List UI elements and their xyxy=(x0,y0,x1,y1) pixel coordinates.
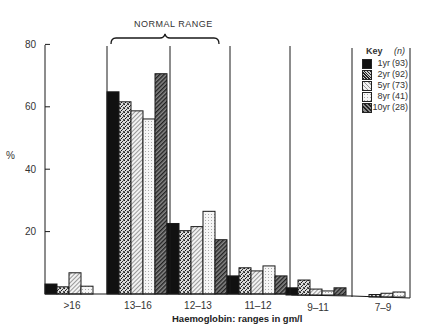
legend-title: Key xyxy=(366,46,383,56)
bar-5yr xyxy=(69,273,81,294)
legend-item-8yr: 8yr(41) xyxy=(360,91,412,102)
bar-group xyxy=(286,280,346,295)
bar-2yr xyxy=(179,231,191,294)
legend-swatch-icon xyxy=(362,81,372,91)
bar-8yr xyxy=(203,211,215,294)
bar-1yr xyxy=(227,276,239,294)
legend-label: 1yr xyxy=(377,58,390,68)
x-tick-12-13: 12–13 xyxy=(173,300,223,311)
y-tick-60: 60 xyxy=(12,101,36,112)
bar-2yr xyxy=(57,287,69,294)
bar-8yr xyxy=(81,286,93,294)
legend-n: (73) xyxy=(392,80,408,90)
bar-group xyxy=(45,273,93,294)
legend-n-header: (n) xyxy=(394,46,405,56)
y-tick-80: 80 xyxy=(12,39,36,50)
bar-group xyxy=(227,266,287,294)
bar-8yr xyxy=(263,266,275,294)
legend-swatch-icon xyxy=(362,70,372,80)
bar-1yr xyxy=(107,92,119,294)
bar-5yr xyxy=(310,289,322,295)
normal-range-label: NORMAL RANGE xyxy=(134,19,213,29)
bar-groups xyxy=(45,74,405,297)
x-axis-label: Haemoglobin: ranges in gm/l xyxy=(172,313,302,324)
bar-5yr xyxy=(381,293,393,297)
legend-n: (92) xyxy=(392,69,408,79)
bar-1yr xyxy=(45,284,57,294)
legend-item-10yr: 10yr(28) xyxy=(360,102,412,113)
legend-n: (41) xyxy=(392,91,408,101)
bar-8yr xyxy=(143,119,155,294)
legend-n: (28) xyxy=(392,102,408,112)
bar-8yr xyxy=(393,292,405,297)
bar-10yr xyxy=(215,240,227,294)
bar-8yr xyxy=(322,291,334,295)
bar-10yr xyxy=(334,288,346,295)
bar-group xyxy=(107,74,167,294)
x-tick-7-9: 7–9 xyxy=(358,302,408,313)
legend-item-2yr: 2yr(92) xyxy=(360,69,412,80)
bar-1yr xyxy=(167,223,179,294)
x-axis-line xyxy=(45,294,410,298)
bar-group xyxy=(167,211,227,294)
y-tick-20: 20 xyxy=(12,226,36,237)
bar-2yr xyxy=(239,268,251,294)
legend-item-5yr: 5yr(73) xyxy=(360,80,412,91)
legend-item-1yr: 1yr(93) xyxy=(360,58,412,69)
legend: Key (n) 1yr(93)2yr(92)5yr(73)8yr(41)10yr… xyxy=(360,46,412,113)
legend-swatch-icon xyxy=(362,59,372,69)
normal-range-brace xyxy=(111,34,219,44)
bar-10yr xyxy=(275,276,287,294)
bar-5yr xyxy=(251,271,263,294)
legend-swatch-icon xyxy=(362,103,372,113)
legend-label: 8yr xyxy=(377,91,390,101)
bar-2yr xyxy=(298,280,310,295)
bar-5yr xyxy=(191,227,203,294)
bar-2yr xyxy=(119,102,131,294)
y-axis-label: % xyxy=(6,150,15,161)
x-tick-13-16: 13–16 xyxy=(113,300,163,311)
bar-5yr xyxy=(131,111,143,294)
legend-label: 10yr xyxy=(372,102,390,112)
legend-label: 2yr xyxy=(377,69,390,79)
y-tick-40: 40 xyxy=(12,164,36,175)
x-tick-9-11: 9–11 xyxy=(293,302,343,313)
legend-label: 5yr xyxy=(377,80,390,90)
x-tick-gt16: >16 xyxy=(47,300,97,311)
bar-10yr xyxy=(155,74,167,294)
legend-swatch-icon xyxy=(362,92,372,102)
legend-n: (93) xyxy=(392,58,408,68)
x-tick-11-12: 11–12 xyxy=(233,300,283,311)
